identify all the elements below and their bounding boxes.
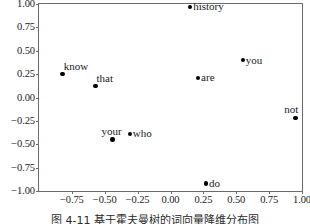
x-axis-tick-label: 0.00 — [162, 195, 180, 206]
y-axis-tick-mark — [36, 74, 39, 75]
data-point-marker — [128, 132, 132, 136]
y-axis-tick-mark — [36, 98, 39, 99]
data-point-marker — [241, 58, 245, 62]
data-point-label: you — [246, 55, 263, 66]
y-axis-tick-mark — [36, 51, 39, 52]
data-point-label: who — [133, 128, 152, 139]
data-point-marker — [196, 76, 200, 80]
data-point-label: your — [102, 126, 122, 137]
y-axis-tick-mark — [36, 168, 39, 169]
data-point-marker — [293, 116, 297, 120]
data-point-label: not — [284, 104, 298, 115]
data-point-marker — [204, 181, 208, 185]
data-point-marker — [110, 137, 114, 141]
x-axis-tick-label: 0.25 — [194, 195, 212, 206]
data-point-marker — [93, 84, 97, 88]
x-axis-tick-label: −0.25 — [126, 195, 150, 206]
y-axis-tick-label: 0.50 — [17, 46, 35, 57]
scatter-plot-figure: 1.000.750.500.250.00−0.25−0.50−0.75−1.00… — [0, 0, 310, 224]
plot-area: 1.000.750.500.250.00−0.25−0.50−0.75−1.00… — [39, 4, 302, 191]
y-axis-tick-label: −0.75 — [11, 162, 35, 173]
y-axis-tick-mark — [36, 27, 39, 28]
y-axis-tick-label: −1.00 — [11, 186, 35, 197]
y-axis-tick-label: 0.25 — [17, 69, 35, 80]
data-point-label: are — [201, 72, 214, 83]
data-point-label: that — [97, 73, 114, 84]
y-axis-tick-mark — [36, 121, 39, 122]
plot-frame: 1.000.750.500.250.00−0.25−0.50−0.75−1.00… — [38, 3, 303, 192]
y-axis-tick-label: 1.00 — [17, 0, 35, 9]
y-axis-tick-mark — [36, 144, 39, 145]
x-axis-tick-label: 1.00 — [293, 195, 310, 206]
x-axis-tick-label: 0.75 — [260, 195, 278, 206]
data-point-marker — [60, 72, 64, 76]
y-axis-tick-label: −0.25 — [11, 116, 35, 127]
data-point-label: know — [64, 61, 88, 72]
y-axis-tick-label: 0.75 — [17, 22, 35, 33]
figure-caption: 图 4-11 基于霍夫曼树的词向量降维分布图 — [0, 214, 310, 224]
data-point-label: do — [209, 178, 220, 189]
x-axis-tick-label: −0.50 — [93, 195, 117, 206]
y-axis-tick-label: −0.50 — [11, 139, 35, 150]
y-axis-tick-label: 0.00 — [17, 92, 35, 103]
x-axis-tick-label: 0.50 — [227, 195, 245, 206]
y-axis-tick-mark — [36, 191, 39, 192]
data-point-marker — [188, 5, 192, 9]
x-axis-tick-label: −0.75 — [60, 195, 84, 206]
data-point-label: history — [193, 1, 224, 12]
y-axis-tick-mark — [36, 4, 39, 5]
